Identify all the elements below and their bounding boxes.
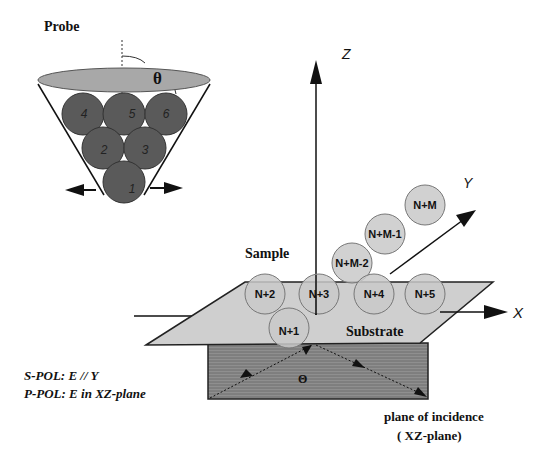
p-pol-note: P-POL: E in XZ-plane bbox=[24, 386, 146, 401]
sample-sphere-label-n-m: N+M bbox=[413, 199, 437, 211]
probe-sphere-1 bbox=[103, 161, 145, 203]
sample-sphere-label-n-2: N+2 bbox=[255, 288, 276, 300]
y-axis-arrow-icon bbox=[456, 210, 476, 227]
probe-group: 4 5 6 2 3 1 Probe θ bbox=[38, 19, 210, 203]
sample-title: Sample bbox=[245, 246, 289, 261]
x-axis-label: X bbox=[512, 304, 524, 321]
probe-title: Probe bbox=[44, 19, 80, 34]
probe-rim bbox=[38, 68, 210, 92]
plane-of-incidence-label: plane of incidence bbox=[384, 409, 484, 424]
probe-sphere-label-5: 5 bbox=[129, 107, 136, 121]
probe-angle-symbol: θ bbox=[153, 69, 162, 88]
substrate-label: Substrate bbox=[346, 324, 404, 339]
probe-sphere-label-4: 4 bbox=[81, 107, 88, 121]
probe-angle-arc bbox=[122, 56, 145, 63]
arrow-left-icon bbox=[65, 184, 84, 196]
xz-plane-label: ( XZ-plane) bbox=[397, 428, 462, 443]
y-axis-label: Y bbox=[463, 175, 474, 191]
substrate-block: Θ bbox=[208, 343, 428, 399]
z-axis-label: Z bbox=[341, 46, 351, 62]
sample-sphere-label-n-4: N+4 bbox=[364, 288, 385, 300]
sample-sphere-label-n-1: N+1 bbox=[279, 325, 300, 337]
probe-sphere-label-3: 3 bbox=[142, 143, 149, 157]
incidence-angle-symbol: Θ bbox=[298, 372, 307, 386]
x-axis-arrow-icon bbox=[484, 305, 508, 319]
s-pol-note: S-POL: E // Y bbox=[24, 368, 100, 383]
diagram-canvas: 4 5 6 2 3 1 Probe θ Θ bbox=[0, 0, 536, 458]
sample-sphere-label-n-5: N+5 bbox=[415, 288, 436, 300]
sample-sphere-label-n-m-1: N+M-1 bbox=[368, 228, 401, 240]
probe-sphere-label-1: 1 bbox=[129, 182, 136, 196]
z-axis-arrow-icon bbox=[310, 60, 322, 84]
probe-sphere-label-6: 6 bbox=[163, 107, 170, 121]
arrow-right-icon bbox=[164, 182, 183, 194]
sample-sphere-label-n-m-2: N+M-2 bbox=[335, 257, 368, 269]
substrate-side-face bbox=[208, 343, 428, 399]
sample-sphere-label-n-3: N+3 bbox=[309, 288, 330, 300]
probe-sphere-label-2: 2 bbox=[100, 143, 108, 157]
